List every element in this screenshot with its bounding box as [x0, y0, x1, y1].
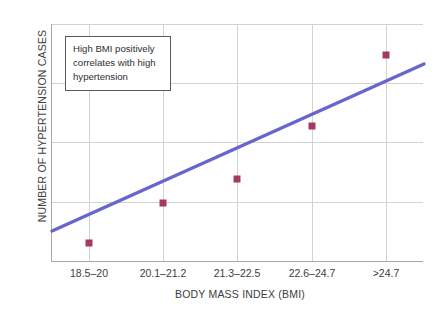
- x-axis-tick-label-2: 20.1–21.2: [140, 267, 187, 279]
- x-axis-tick-label-3: 21.3–22.5: [214, 267, 261, 279]
- chart-container: NUMBER OF HYPERTENSION CASES 175 150 125…: [0, 0, 438, 316]
- x-axis-tick-label-5: >24.7: [373, 267, 400, 279]
- data-point-5[interactable]: [383, 51, 390, 58]
- x-axis-title: BODY MASS INDEX (BMI): [50, 288, 430, 300]
- annotation-callout: High BMI positively correlates with high…: [65, 36, 171, 91]
- data-point-1[interactable]: [86, 240, 93, 247]
- x-axis-tick-label-4: 22.6–24.7: [289, 267, 336, 279]
- data-point-3[interactable]: [234, 175, 241, 182]
- annotation-line-3: hypertension: [73, 70, 164, 84]
- annotation-line-1: High BMI positively: [73, 42, 164, 56]
- annotation-line-2: correlates with high: [73, 56, 164, 70]
- x-axis-tick-label-1: 18.5–20: [70, 267, 108, 279]
- data-point-4[interactable]: [309, 123, 316, 130]
- data-point-2[interactable]: [160, 199, 167, 206]
- y-axis-title: NUMBER OF HYPERTENSION CASES: [36, 1, 48, 251]
